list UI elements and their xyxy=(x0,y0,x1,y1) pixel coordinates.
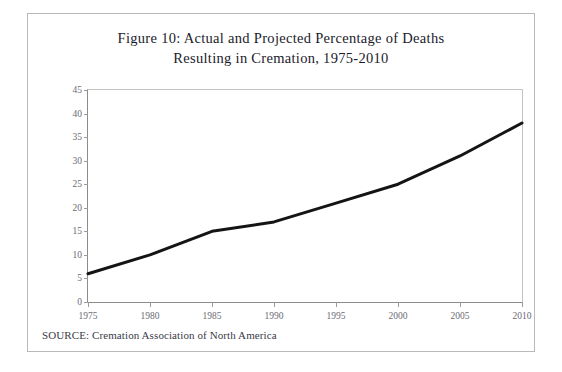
figure-title: Figure 10: Actual and Projected Percenta… xyxy=(28,28,534,68)
x-axis-tick-mark xyxy=(398,302,399,307)
x-axis-tick-mark xyxy=(274,302,275,307)
y-axis-tick-label: 0 xyxy=(77,297,82,307)
x-axis-tick-mark xyxy=(460,302,461,307)
y-axis-tick-label: 35 xyxy=(73,132,83,142)
source-note: SOURCE: Cremation Association of North A… xyxy=(42,329,277,341)
x-axis-tick-mark xyxy=(212,302,213,307)
plot-area: 0510152025303540451975198019851990199520… xyxy=(87,89,523,303)
y-axis-tick-label: 5 xyxy=(77,273,82,283)
x-axis-tick-mark xyxy=(522,302,523,307)
y-axis-tick-mark xyxy=(84,137,88,138)
y-axis-tick-label: 15 xyxy=(73,226,83,236)
y-axis-tick-mark xyxy=(84,255,88,256)
x-axis-tick-label: 2010 xyxy=(513,311,532,321)
y-axis-tick-mark xyxy=(84,231,88,232)
x-axis-tick-label: 2000 xyxy=(389,311,408,321)
y-axis-tick-mark xyxy=(84,114,88,115)
y-axis-tick-label: 45 xyxy=(73,85,83,95)
x-axis-tick-mark xyxy=(336,302,337,307)
figure-container: Figure 10: Actual and Projected Percenta… xyxy=(27,13,535,352)
y-axis-tick-label: 30 xyxy=(73,156,83,166)
chart-canvas xyxy=(88,90,522,302)
y-axis-tick-mark xyxy=(84,184,88,185)
y-axis-tick-mark xyxy=(84,278,88,279)
x-axis-tick-label: 1995 xyxy=(327,311,346,321)
y-axis-tick-label: 20 xyxy=(73,203,83,213)
y-axis-tick-label: 40 xyxy=(73,109,83,119)
x-axis-tick-label: 1985 xyxy=(203,311,222,321)
y-axis-tick-label: 25 xyxy=(73,179,83,189)
x-axis-tick-label: 1990 xyxy=(265,311,284,321)
y-axis-tick-mark xyxy=(84,90,88,91)
x-axis-tick-mark xyxy=(150,302,151,307)
x-axis-tick-label: 1975 xyxy=(79,311,98,321)
y-axis-tick-mark xyxy=(84,161,88,162)
x-axis-tick-mark xyxy=(88,302,89,307)
y-axis-tick-mark xyxy=(84,208,88,209)
x-axis-tick-label: 1980 xyxy=(141,311,160,321)
y-axis-tick-label: 10 xyxy=(73,250,83,260)
cremation-percentage-line xyxy=(88,123,522,274)
x-axis-tick-label: 2005 xyxy=(451,311,470,321)
